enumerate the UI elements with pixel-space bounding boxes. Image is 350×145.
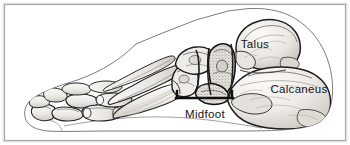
label-midfoot: Midfoot [185,108,225,120]
foot-anatomy-illustration: Talus Calcaneus Midfoot [0,0,350,145]
calcaneus-bone [228,67,331,129]
label-calcaneus: Calcaneus [270,83,327,95]
foot-anatomy-figure: Talus Calcaneus Midfoot [0,0,350,145]
label-talus: Talus [241,38,269,50]
